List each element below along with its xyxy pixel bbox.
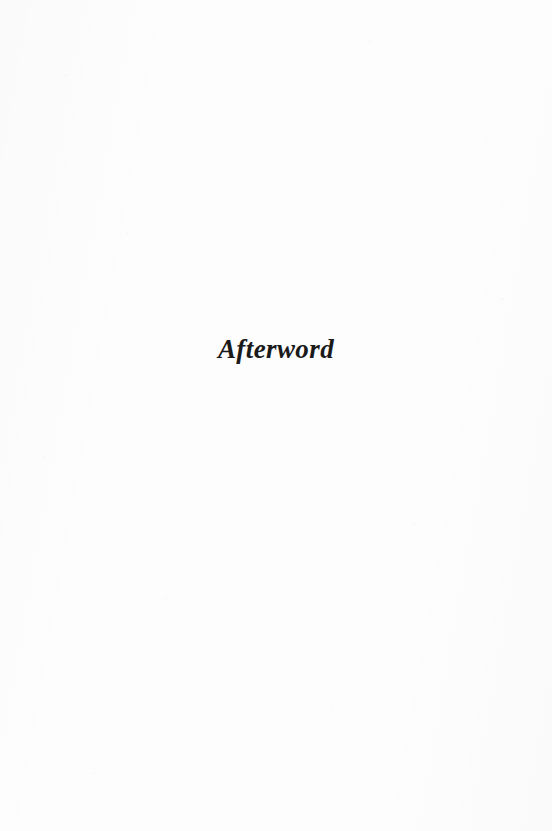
paper-texture: [0, 0, 552, 831]
page-title: Afterword: [0, 332, 552, 366]
book-page: Afterword: [0, 0, 552, 831]
